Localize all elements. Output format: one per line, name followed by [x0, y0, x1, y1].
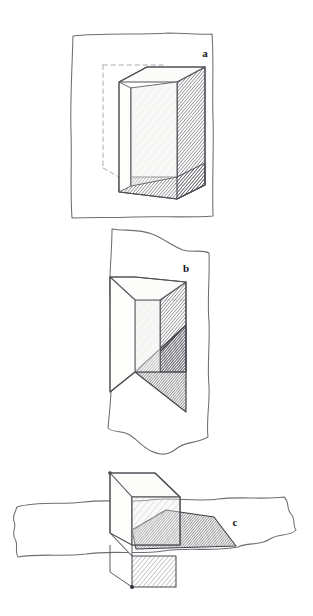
panel-b: b [108, 229, 209, 454]
panel-c-below-plane-section [132, 556, 176, 587]
panel-a: a [71, 33, 214, 218]
panel-c-label: c [233, 516, 238, 528]
panel-a-right-face [177, 67, 205, 199]
panel-c-front-face-tint [132, 497, 180, 545]
panel-a-left-face [119, 82, 131, 192]
panel-b-front-face-tint [135, 300, 160, 372]
sketch-figure: a b [0, 0, 313, 616]
figure-root: a b [0, 0, 313, 616]
panel-b-label: b [183, 262, 189, 274]
panel-c-vertex-marker-bottom [130, 585, 134, 589]
panel-a-front-face-tint [131, 82, 177, 186]
panel-a-label: a [202, 47, 208, 59]
